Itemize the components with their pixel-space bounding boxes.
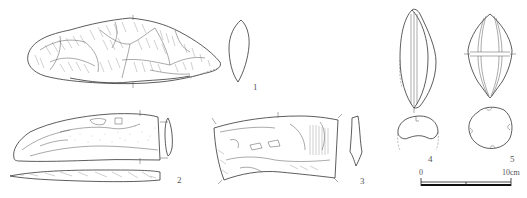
artifact-1-drawing [28,15,250,88]
artifact-2-drawing [10,110,172,182]
artifact-4-drawing [398,9,439,150]
scale-start-label: 0 [419,168,423,177]
artifact-2-label: 2 [177,175,182,185]
artifact-3-drawing [212,112,362,184]
scale-bar [421,178,511,186]
artifact-1-label: 1 [253,82,258,92]
artifact-figure: 1 2 3 4 5 0 10cm [0,0,527,198]
artifact-5-drawing [464,14,516,149]
artifact-4-label: 4 [428,154,433,164]
artifact-5-label: 5 [510,154,515,164]
artifact-3-label: 3 [360,176,365,186]
artifact-drawings [0,0,527,198]
scale-end-label: 10cm [502,168,520,177]
